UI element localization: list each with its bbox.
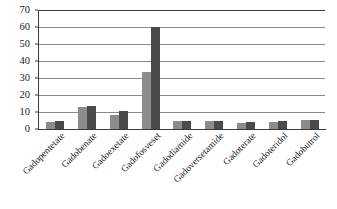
bar-group — [167, 10, 199, 129]
y-tick-label-40: 40 — [20, 56, 31, 67]
bar — [142, 72, 151, 129]
y-tick-label-10: 10 — [20, 107, 31, 118]
y-tick-label-0: 0 — [25, 124, 30, 135]
bar — [310, 120, 319, 129]
bar — [78, 107, 87, 129]
bar-group — [230, 10, 262, 129]
bar-chart: 010203040506070 GadopentetateGadobenateG… — [0, 0, 337, 209]
x-axis: GadopentetateGadobenateGadoexetateGadofo… — [38, 130, 325, 209]
bar-group — [198, 10, 230, 129]
bar — [278, 121, 287, 129]
y-tick-label-70: 70 — [20, 5, 31, 16]
bars-layer — [39, 10, 326, 129]
bar-group — [135, 10, 167, 129]
bar — [237, 123, 246, 129]
bar-group — [39, 10, 71, 129]
bar — [87, 106, 96, 129]
bar — [301, 120, 310, 129]
y-tick-label-20: 20 — [20, 90, 31, 101]
y-tick-label-50: 50 — [20, 39, 31, 50]
bar — [214, 121, 223, 130]
bar-group — [71, 10, 103, 129]
plot-area — [38, 10, 326, 130]
bar — [269, 122, 278, 129]
bar — [119, 111, 128, 129]
bar — [110, 115, 119, 129]
bar-group — [262, 10, 294, 129]
bar — [55, 121, 64, 129]
bar — [205, 121, 214, 129]
bar — [182, 121, 191, 130]
bar-group — [294, 10, 326, 129]
y-tick-label-60: 60 — [20, 22, 31, 33]
bar — [173, 121, 182, 129]
x-tick-label-text: Gadobutrol — [284, 131, 322, 169]
y-axis: 010203040506070 — [0, 0, 36, 139]
bar — [46, 122, 55, 129]
y-tick-label-30: 30 — [20, 73, 31, 84]
bar — [246, 122, 255, 129]
bar-group — [103, 10, 135, 129]
x-tick-label: Gadobutrol — [285, 132, 323, 170]
bar — [151, 27, 160, 129]
